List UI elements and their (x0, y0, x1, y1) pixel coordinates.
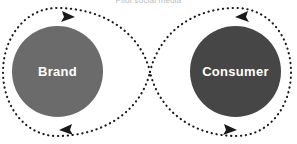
arrow-top-left-icon (61, 11, 75, 22)
node-brand[interactable]: Brand (12, 26, 103, 117)
arrow-bottom-left-icon (59, 124, 73, 135)
node-consumer[interactable]: Consumer (190, 26, 281, 117)
node-brand-label: Brand (38, 64, 77, 79)
node-consumer-label: Consumer (202, 64, 269, 79)
diagram-canvas: Pilot social media Brand Consumer (0, 0, 297, 144)
arrow-top-right-icon (235, 11, 249, 22)
arrow-bottom-right-icon (223, 124, 237, 135)
